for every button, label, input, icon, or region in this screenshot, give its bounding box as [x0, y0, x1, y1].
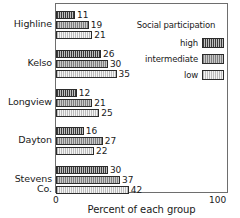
category-label: Dayton [0, 135, 52, 145]
bar-row: 22 [56, 147, 227, 155]
bar-row: 37 [56, 176, 227, 184]
bar-value-label: 30 [110, 59, 121, 69]
bar-row: 21 [56, 99, 227, 107]
legend-entry-label: intermediate [145, 54, 198, 64]
bar-row: 11 [56, 11, 227, 19]
bar-value-label: 21 [94, 98, 105, 108]
bar-value-label: 19 [91, 20, 102, 30]
bar-low [56, 31, 92, 39]
bar-low [56, 186, 129, 194]
bar-row: 30 [56, 166, 227, 174]
bar-row: 12 [56, 89, 227, 97]
bar-intermediate [56, 137, 103, 145]
legend-swatch-low [202, 70, 224, 80]
bar-value-label: 16 [86, 126, 97, 136]
bar-value-label: 37 [122, 175, 133, 185]
bar-row: 25 [56, 109, 227, 117]
bar-value-label: 22 [96, 146, 107, 156]
bar-group: 162722 [56, 127, 227, 157]
bar-value-label: 25 [101, 108, 112, 118]
bar-group: 122125 [56, 89, 227, 119]
bar-low [56, 147, 94, 155]
category-label: Longview [0, 97, 52, 107]
legend-entry: low [128, 70, 224, 80]
bar-high [56, 50, 101, 58]
bar-low [56, 70, 117, 78]
bar-high [56, 127, 84, 135]
bar-value-label: 12 [79, 88, 90, 98]
bar-high [56, 11, 75, 19]
bar-intermediate [56, 60, 108, 68]
bar-high [56, 166, 108, 174]
bar-value-label: 11 [77, 10, 88, 20]
legend-entries: highintermediatelow [128, 38, 224, 80]
x-axis-label: Percent of each group [55, 204, 228, 215]
bar-value-label: 42 [131, 185, 142, 195]
bar-value-label: 21 [94, 30, 105, 40]
legend-swatch-high [202, 38, 224, 48]
bar-intermediate [56, 99, 92, 107]
category-label: Stevens Co. [0, 174, 52, 194]
legend-entry: high [128, 38, 224, 48]
bar-value-label: 27 [105, 136, 116, 146]
bar-row: 42 [56, 186, 227, 194]
bar-intermediate [56, 176, 120, 184]
bar-low [56, 109, 99, 117]
legend-entry: intermediate [128, 54, 224, 64]
bar-value-label: 30 [110, 165, 121, 175]
bar-group: 303742 [56, 166, 227, 196]
legend-entry-label: low [184, 70, 198, 80]
horizontal-bar-chart: 111921263035122125162722303742 HighlineK… [0, 0, 240, 218]
bar-row: 27 [56, 137, 227, 145]
category-label: Kelso [0, 58, 52, 68]
bar-intermediate [56, 21, 89, 29]
legend-entry-label: high [180, 38, 198, 48]
bar-row: 16 [56, 127, 227, 135]
bar-value-label: 26 [103, 49, 114, 59]
legend-swatch-intermediate [202, 54, 224, 64]
legend: Social participation highintermediatelow [128, 20, 224, 86]
legend-title: Social participation [128, 20, 224, 30]
bar-high [56, 89, 77, 97]
category-label: Highline [0, 19, 52, 29]
